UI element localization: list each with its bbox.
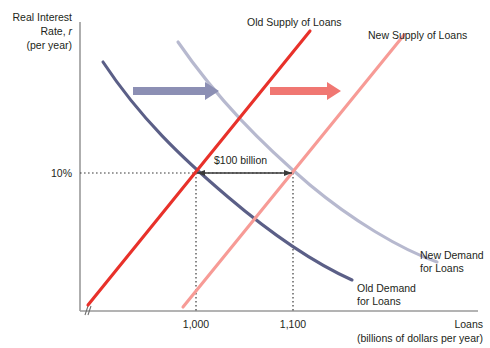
- new-supply-label: New Supply of Loans: [368, 29, 467, 41]
- x-axis-title-line1: Loans: [454, 318, 483, 330]
- y-axis-title-line3: (per year): [26, 39, 72, 51]
- x-tick-label-1100: 1,100: [280, 318, 306, 330]
- y-axis-title-rate-word: Rate,: [40, 25, 68, 37]
- chart-background: [0, 0, 490, 348]
- y-tick-label-10-percent: 10%: [51, 167, 72, 179]
- y-axis-title-variable-r: r: [69, 25, 73, 37]
- chart-svg: $100 billion Real Interest Rate, r (per …: [0, 0, 490, 348]
- old-demand-label-line1: Old Demand: [357, 282, 416, 294]
- old-supply-label: Old Supply of Loans: [247, 16, 342, 28]
- gap-label: $100 billion: [214, 154, 267, 166]
- x-axis-title-line2: (billions of dollars per year): [357, 332, 483, 344]
- new-demand-label-line2: for Loans: [420, 262, 464, 274]
- x-tick-label-1000: 1,000: [183, 318, 209, 330]
- new-demand-label-line1: New Demand: [420, 249, 484, 261]
- y-axis-title-line2: Rate, r: [40, 25, 72, 37]
- loanable-funds-diagram: $100 billion Real Interest Rate, r (per …: [0, 0, 490, 348]
- y-axis-title-line1: Real Interest: [12, 11, 72, 23]
- old-demand-label-line2: for Loans: [357, 295, 401, 307]
